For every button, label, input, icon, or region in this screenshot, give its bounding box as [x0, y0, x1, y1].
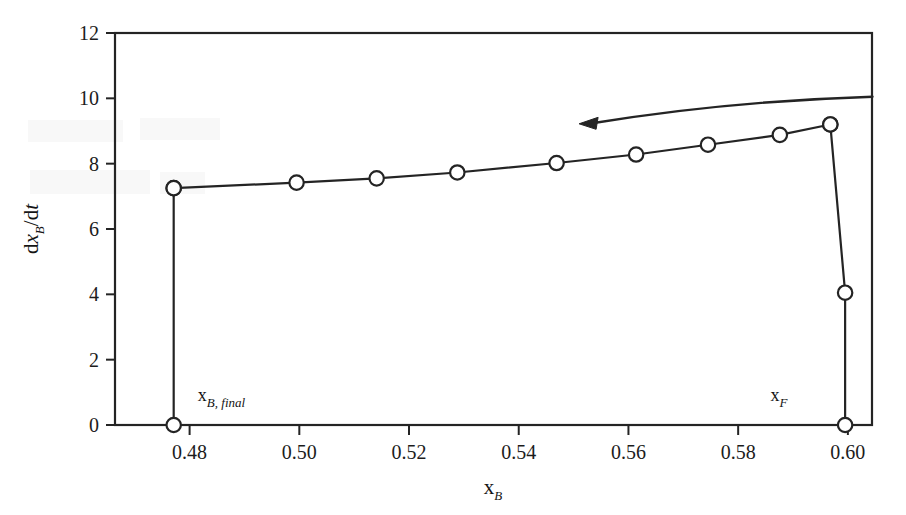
data-point-marker	[773, 128, 787, 142]
arrow-head	[579, 117, 598, 129]
data-point-marker	[289, 175, 303, 189]
data-point-marker	[166, 418, 180, 432]
y-tick-label: 8	[89, 153, 99, 175]
y-axis-tick-labels: 024681012	[79, 22, 99, 436]
data-point-marker	[549, 156, 563, 170]
x-axis-tick-labels: 0.480.500.520.540.560.580.60	[172, 441, 865, 463]
x-axis-title-subscript: B	[494, 488, 502, 503]
x-tick-label: 0.48	[172, 441, 207, 463]
svg-text:dxB/dt: dxB/dt	[19, 203, 47, 254]
y-tick-label: 10	[79, 87, 99, 109]
data-point-marker	[369, 171, 383, 185]
x-axis-title-base: x	[484, 475, 495, 499]
y-tick-label: 2	[89, 349, 99, 371]
x-tick-label: 0.60	[830, 441, 865, 463]
data-point-marker	[166, 181, 180, 195]
rayleigh-distillation-chart: 024681012 0.480.500.520.540.560.580.60 x…	[0, 0, 906, 515]
annotation-x_F: xF	[771, 385, 789, 410]
series-polylines	[174, 124, 845, 425]
y-axis-title: dxB/dt	[19, 203, 47, 254]
y-tick-label: 0	[89, 414, 99, 436]
data-point-marker	[838, 418, 852, 432]
x-tick-label: 0.56	[611, 441, 646, 463]
y-axis-title-d: d	[19, 243, 43, 254]
annotation-subscript: F	[779, 395, 789, 410]
y-axis-title-subscript: B	[32, 226, 47, 234]
x-tick-label: 0.50	[282, 441, 317, 463]
x-axis-title: xB	[484, 475, 503, 503]
data-point-marker	[823, 117, 837, 131]
series-line	[174, 124, 831, 188]
y-axis-ticks	[106, 33, 115, 425]
y-axis-title-t: t	[19, 203, 43, 210]
plot-frame	[115, 33, 872, 425]
x-tick-label: 0.52	[392, 441, 427, 463]
annotation-base: x	[198, 385, 207, 405]
point-annotations: xB, finalxF	[198, 385, 789, 410]
data-point-marker	[838, 286, 852, 300]
y-tick-label: 6	[89, 218, 99, 240]
x-tick-label: 0.54	[501, 441, 536, 463]
series-line	[830, 124, 845, 425]
series-markers	[166, 117, 852, 432]
figure-container: 024681012 0.480.500.520.540.560.580.60 x…	[0, 0, 906, 515]
y-tick-label: 12	[79, 22, 99, 44]
x-axis-ticks	[190, 425, 848, 435]
data-point-marker	[701, 138, 715, 152]
data-point-marker	[629, 147, 643, 161]
annotation-x_B,final: xB, final	[198, 385, 246, 410]
annotation-subscript: B, final	[207, 395, 246, 410]
x-tick-label: 0.58	[721, 441, 756, 463]
data-point-marker	[450, 165, 464, 179]
svg-text:xB: xB	[484, 475, 503, 503]
y-tick-label: 4	[89, 283, 99, 305]
y-axis-title-slash: /d	[19, 209, 43, 226]
annotation-base: x	[771, 385, 780, 405]
page-bleed-artifact	[28, 118, 220, 194]
